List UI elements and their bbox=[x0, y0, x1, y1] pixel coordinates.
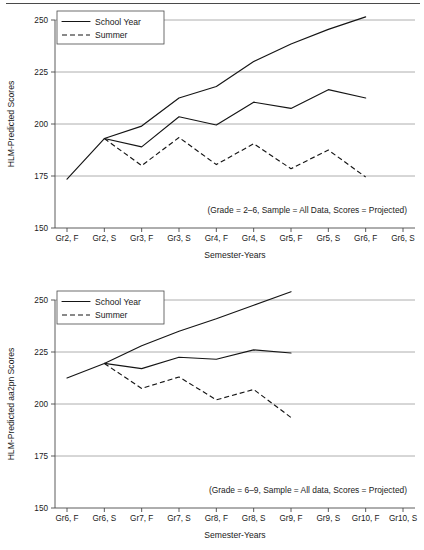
chart-svg-top: 150175200225250 Gr2, FGr2, SGr3, FGr3, S… bbox=[0, 0, 424, 275]
x-axis-title-bottom: Semester-Years bbox=[204, 530, 265, 540]
y-tick-label-225: 225 bbox=[34, 68, 48, 77]
chart-svg-bottom: 150175200225250 Gr6, FGr6, SGr7, FGr7, S… bbox=[0, 275, 424, 550]
y-tick-label-250: 250 bbox=[34, 16, 48, 25]
y-tick-label-225: 225 bbox=[34, 348, 48, 357]
y-axis-title-top: HLM-Predicted Scores bbox=[6, 81, 16, 167]
chart-annotation-bottom: (Grade = 6–9, Sample = All data, Scores … bbox=[209, 485, 407, 495]
legend-label-school-year-bottom: School Year bbox=[95, 297, 141, 307]
x-tick-label-3: Gr7, S bbox=[167, 514, 191, 523]
x-tick-label-6: Gr5, F bbox=[279, 234, 302, 243]
x-tick-label-3: Gr3, S bbox=[167, 234, 191, 243]
series-line-school-year-1 bbox=[104, 90, 365, 147]
y-tick-label-150: 150 bbox=[34, 504, 48, 513]
x-tick-label-0: Gr6, F bbox=[55, 514, 78, 523]
x-tick-labels-top: Gr2, FGr2, SGr3, FGr3, SGr4, FGr4, SGr5,… bbox=[55, 234, 415, 243]
y-tick-labels-top: 150175200225250 bbox=[34, 16, 48, 233]
x-tick-label-4: Gr4, F bbox=[205, 234, 228, 243]
legend-label-school-year-top: School Year bbox=[95, 17, 141, 27]
y-tick-marks-bottom bbox=[51, 300, 55, 508]
chart-figure-top: 150175200225250 Gr2, FGr2, SGr3, FGr3, S… bbox=[0, 0, 424, 275]
x-tick-label-5: Gr8, S bbox=[242, 514, 266, 523]
x-tick-label-4: Gr8, F bbox=[205, 514, 228, 523]
x-tick-marks-top bbox=[67, 228, 403, 232]
x-tick-label-2: Gr3, F bbox=[130, 234, 153, 243]
y-tick-label-200: 200 bbox=[34, 120, 48, 129]
x-tick-label-7: Gr9, S bbox=[316, 514, 340, 523]
y-tick-label-175: 175 bbox=[34, 172, 48, 181]
y-tick-label-175: 175 bbox=[34, 452, 48, 461]
x-tick-label-5: Gr4, S bbox=[242, 234, 266, 243]
x-tick-label-0: Gr2, F bbox=[55, 234, 78, 243]
chart-figure-bottom: 150175200225250 Gr6, FGr6, SGr7, FGr7, S… bbox=[0, 275, 424, 550]
x-tick-label-9: Gr6, S bbox=[391, 234, 415, 243]
y-tick-labels-bottom: 150175200225250 bbox=[34, 296, 48, 513]
x-tick-label-2: Gr7, F bbox=[130, 514, 153, 523]
x-tick-marks-bottom bbox=[67, 508, 403, 512]
legend-top: School Year Summer bbox=[57, 11, 164, 44]
y-tick-label-150: 150 bbox=[34, 224, 48, 233]
x-tick-label-8: Gr10, F bbox=[352, 514, 380, 523]
y-tick-label-250: 250 bbox=[34, 296, 48, 305]
x-tick-label-7: Gr5, S bbox=[316, 234, 340, 243]
series-line-summer-2 bbox=[104, 138, 365, 178]
x-tick-label-1: Gr2, S bbox=[92, 234, 116, 243]
x-tick-label-9: Gr10, S bbox=[389, 514, 418, 523]
series-line-summer-2 bbox=[104, 363, 291, 417]
legend-label-summer-top: Summer bbox=[95, 30, 128, 40]
y-axis-title-bottom: HLM-Predicted aa2pn Scores bbox=[6, 348, 16, 461]
y-tick-marks-top bbox=[51, 20, 55, 228]
x-axis-title-top: Semester-Years bbox=[204, 250, 265, 260]
series-line-school-year-1 bbox=[104, 350, 291, 369]
figure-page: 150175200225250 Gr2, FGr2, SGr3, FGr3, S… bbox=[0, 0, 424, 550]
x-tick-label-8: Gr6, F bbox=[354, 234, 377, 243]
x-tick-label-6: Gr9, F bbox=[279, 514, 302, 523]
legend-label-summer-bottom: Summer bbox=[95, 310, 128, 320]
x-tick-labels-bottom: Gr6, FGr6, SGr7, FGr7, SGr8, FGr8, SGr9,… bbox=[55, 514, 417, 523]
y-tick-label-200: 200 bbox=[34, 400, 48, 409]
chart-annotation-top: (Grade = 2–6, Sample = All Data, Scores … bbox=[208, 205, 408, 215]
legend-bottom: School Year Summer bbox=[57, 291, 164, 324]
x-tick-label-1: Gr6, S bbox=[92, 514, 116, 523]
